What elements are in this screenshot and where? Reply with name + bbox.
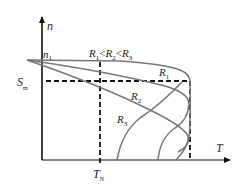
y-axis-label: n	[47, 19, 53, 33]
curve-r1-label: R1	[158, 66, 170, 81]
sm-label: Sm	[17, 75, 28, 91]
x-axis-label: T	[216, 141, 224, 155]
n1-label: n1	[43, 48, 53, 62]
curve-r3-label: R3	[116, 113, 128, 128]
tn-label: TN	[93, 167, 105, 182]
resistance-relation-label: R1<R2<R3	[88, 47, 133, 62]
torque-speed-diagram: n T n1 Sm TN R1<R2<R3 R1 R2 R3	[0, 0, 245, 190]
